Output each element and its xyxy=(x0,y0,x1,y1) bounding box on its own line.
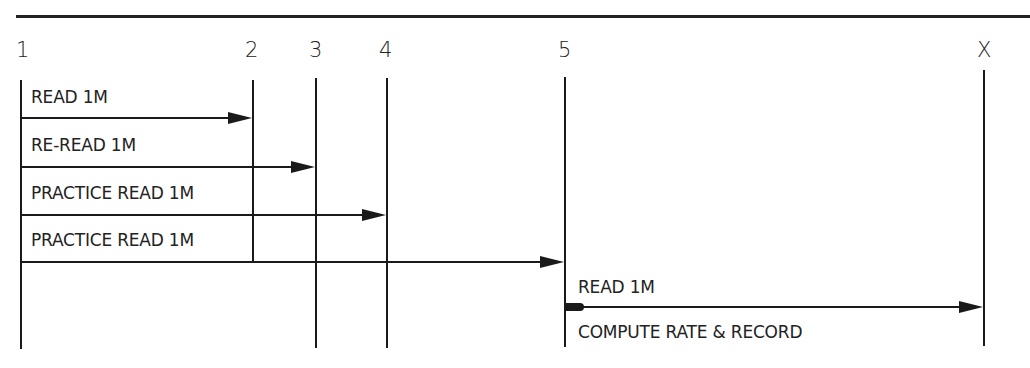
column-label-3: 3 xyxy=(309,40,322,61)
vertical-line-x xyxy=(983,70,985,346)
column-label-1: 1 xyxy=(16,40,29,61)
vertical-line-2 xyxy=(252,80,254,262)
step-label-practice-1: PRACTICE READ 1M xyxy=(31,185,194,202)
arrowhead-icon xyxy=(291,161,315,173)
arrow-1-to-5 xyxy=(20,261,544,263)
arrow-1-to-4 xyxy=(20,214,366,216)
arrowhead-icon xyxy=(362,209,386,221)
vertical-line-3 xyxy=(315,78,317,348)
arrowhead-icon xyxy=(959,301,983,313)
arrowhead-icon xyxy=(540,256,564,268)
arrowhead-icon xyxy=(228,112,252,124)
vertical-line-4 xyxy=(386,78,388,348)
step-label-practice-2: PRACTICE READ 1M xyxy=(31,232,194,249)
column-label-x: X xyxy=(977,40,991,61)
column-label-5: 5 xyxy=(558,40,571,61)
column-label-2: 2 xyxy=(245,40,258,61)
top-rule xyxy=(16,15,1030,18)
arrow-5-to-x xyxy=(566,306,964,308)
step-label-reread: RE-READ 1M xyxy=(31,137,136,154)
step-label-final-read: READ 1M xyxy=(578,279,655,296)
arrow-1-to-2 xyxy=(20,117,232,119)
column-label-4: 4 xyxy=(379,40,392,61)
arrow-1-to-3 xyxy=(20,166,296,168)
step-label-read: READ 1M xyxy=(31,89,108,106)
final-note: COMPUTE RATE & RECORD xyxy=(578,324,802,341)
